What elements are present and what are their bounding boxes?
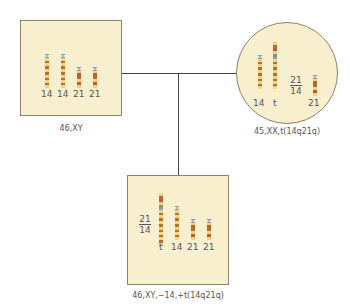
mother-circle: 21 14 14 t 21 [236,22,338,124]
chromosome-label: 14 [41,89,52,99]
chromosome-21 [313,75,317,96]
chromosome-label: 21 [73,89,84,99]
fraction-top: 21 [290,75,301,85]
chromosome-21 [207,219,211,240]
chromosome-14 [175,206,179,240]
translocation-fraction: 21 14 [287,75,305,96]
chromosome-14 [61,54,65,88]
chromosome-21 [191,219,195,240]
child-karyotype: 46,XY,−14,+t(14q21q) [108,291,248,300]
chromosome-label: 21 [89,89,100,99]
father-square: 14 14 21 21 [20,20,122,116]
chromosome-label: 14 [171,242,182,252]
chromosome-label: 21 [187,242,198,252]
chromosome-label: t [159,242,163,252]
chromosome-label: 21 [203,242,214,252]
chromosome-label: t [273,98,277,108]
fraction-bottom: 14 [139,225,150,235]
child-square: 21 14 [127,175,229,285]
mother-karyotype: 45,XX,t(14q21q) [226,127,348,136]
fraction-top: 21 [139,214,150,224]
fraction-bottom: 14 [290,86,301,96]
father-karyotype: 46,XY [20,124,122,133]
chromosome-14 [45,54,49,88]
chromosome-14 [258,55,262,89]
chromosome-label: 14 [57,89,68,99]
translocation-chromosome [159,193,163,246]
chromosome-21 [93,67,97,88]
translocation-chromosome [273,42,277,89]
descent-line [178,73,179,176]
chromosome-label: 21 [308,98,319,108]
chromosome-21 [77,67,81,88]
chromosome-label: 14 [253,98,264,108]
translocation-fraction: 21 14 [136,214,154,235]
marriage-line [122,73,236,74]
